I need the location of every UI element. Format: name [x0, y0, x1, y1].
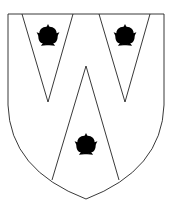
- pile-center: [52, 66, 119, 180]
- shield-outline: [8, 14, 164, 199]
- heraldic-shield: [0, 0, 172, 202]
- rose-icon-left: [37, 24, 60, 46]
- rose-icon-center: [75, 133, 98, 155]
- rose-icon-right: [114, 24, 137, 46]
